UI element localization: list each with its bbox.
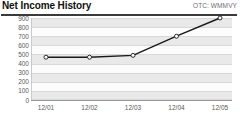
y-axis-labels: 9008007006005004003002001000 [0, 18, 29, 100]
data-point-marker [88, 55, 92, 59]
y-axis-tick-label: 900 [18, 15, 29, 22]
data-series-net-income [31, 18, 232, 100]
x-axis-tick-label: 12/01 [38, 103, 54, 112]
data-point-marker [44, 55, 48, 59]
page-title: Net Income History [0, 0, 91, 12]
x-axis-tick-label: 12/05 [212, 103, 228, 112]
series-line [46, 18, 220, 57]
line-chart: 9008007006005004003002001000 12/0112/021… [0, 18, 240, 122]
series-markers [44, 16, 222, 59]
data-point-marker [131, 53, 135, 57]
x-axis-tick-label: 12/04 [168, 103, 184, 112]
data-point-marker [218, 16, 222, 20]
widget-header: Net Income History OTC: WMMVY [0, 0, 240, 15]
header-divider [1, 14, 237, 16]
data-point-marker [175, 34, 179, 38]
y-axis-tick-label: 700 [18, 33, 29, 40]
y-axis-tick-label: 100 [18, 87, 29, 94]
x-axis-labels: 12/0112/0212/0312/0412/05 [0, 103, 240, 115]
y-axis-tick-label: 800 [18, 24, 29, 31]
ticker-symbol: OTC: WMMVY [193, 0, 240, 12]
x-axis-line [31, 100, 232, 101]
y-axis-tick-label: 600 [18, 42, 29, 49]
net-income-history-widget: Net Income History OTC: WMMVY 9008007006… [0, 0, 240, 122]
y-axis-tick-label: 300 [18, 69, 29, 76]
x-axis-tick-label: 12/02 [81, 103, 97, 112]
y-axis-tick-label: 500 [18, 51, 29, 58]
x-axis-tick-label: 12/03 [125, 103, 141, 112]
y-axis-tick-label: 400 [18, 60, 29, 67]
y-axis-tick-label: 200 [18, 78, 29, 85]
